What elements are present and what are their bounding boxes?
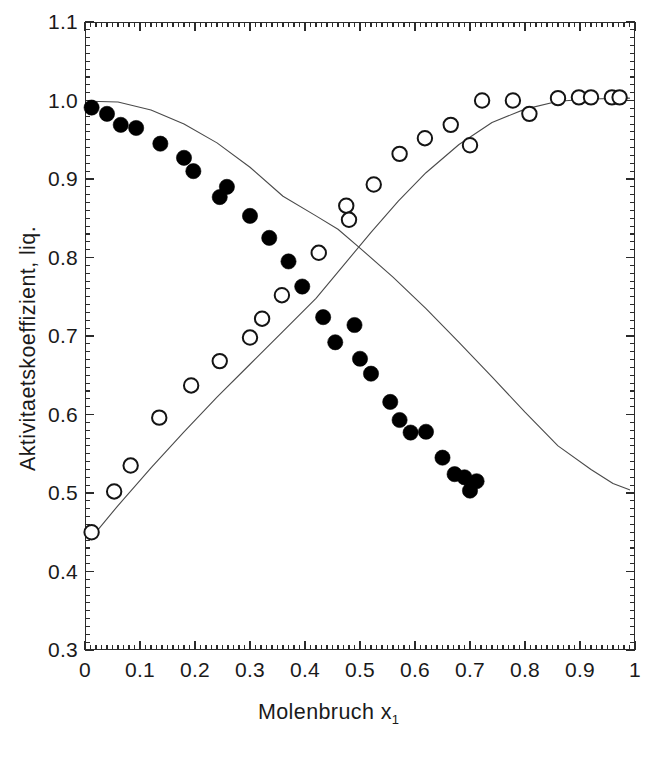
plot-area bbox=[85, 22, 635, 650]
x-axis-tick-labels: 00.10.20.30.40.50.60.70.80.91 bbox=[0, 658, 657, 690]
y-tick-label: 0.6 bbox=[48, 403, 78, 427]
x-tick-label: 0.1 bbox=[125, 658, 155, 682]
x-tick-label: 0.2 bbox=[180, 658, 210, 682]
x-tick-label: 0.9 bbox=[565, 658, 595, 682]
chart-figure: 0.30.40.50.60.70.80.91.01.1 00.10.20.30.… bbox=[0, 0, 657, 758]
y-tick-label: 0.4 bbox=[48, 560, 78, 584]
y-tick-label: 1.0 bbox=[48, 89, 78, 113]
x-tick-label: 0.3 bbox=[235, 658, 265, 682]
x-tick-label: 0.7 bbox=[455, 658, 485, 682]
x-tick-label: 0.4 bbox=[290, 658, 320, 682]
x-axis-title: Molenbruch x1 bbox=[0, 700, 657, 727]
x-tick-label: 1 bbox=[629, 658, 641, 682]
x-tick-label: 0.6 bbox=[400, 658, 430, 682]
x-tick-label: 0.8 bbox=[510, 658, 540, 682]
y-tick-label: 0.5 bbox=[48, 481, 78, 505]
x-axis-title-text: Molenbruch x bbox=[258, 700, 392, 724]
y-axis-title: Aktivitaetskoeffizient, liq. bbox=[16, 129, 41, 569]
y-tick-label: 0.7 bbox=[48, 324, 78, 348]
y-tick-label: 0.8 bbox=[48, 246, 78, 270]
x-axis-title-subscript: 1 bbox=[392, 712, 399, 727]
y-tick-label: 1.1 bbox=[48, 10, 78, 34]
y-tick-label: 0.9 bbox=[48, 167, 78, 191]
x-tick-label: 0 bbox=[79, 658, 91, 682]
x-tick-label: 0.5 bbox=[345, 658, 375, 682]
